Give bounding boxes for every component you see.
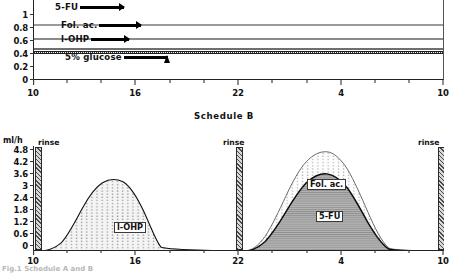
- xtick-top-4: 4: [327, 88, 355, 98]
- ytick-bot-3-6: 3.6: [2, 169, 28, 179]
- curve-label-l-ohp: l-OHP: [114, 222, 146, 233]
- ytick-bot-4-2: 4.2: [2, 157, 28, 167]
- ytick-top-0-6: 0.6: [2, 36, 28, 46]
- ytick-top-0-8: 0.8: [2, 23, 28, 33]
- rinse-label-2: rinse: [223, 138, 244, 147]
- ytick-bot-1-8: 1.8: [2, 205, 28, 215]
- annotation-label: Fol. ac.: [61, 20, 97, 30]
- ytickmark-bot: [30, 161, 34, 162]
- ytickmark-bot: [30, 245, 34, 246]
- ytickmark-bot: [30, 173, 34, 174]
- ytickmark-bot: [30, 185, 34, 186]
- xtick-top-10b: 10: [429, 88, 454, 98]
- ytick-bot-0: 0: [2, 241, 28, 251]
- arrow-right-icon: [80, 6, 124, 9]
- ytick-bot-1-2: 1.2: [2, 217, 28, 227]
- xtick-top-22: 22: [224, 88, 252, 98]
- xtick-top-10a: 10: [19, 88, 47, 98]
- annotation-label: l-OHP: [61, 34, 89, 44]
- ytick-top-0: 0: [2, 75, 28, 85]
- plot-area-bottom: l-OHP Fol. ac. 5-FU: [33, 146, 444, 251]
- ytickmark-top: [30, 53, 34, 54]
- rinse-label-1: rinse: [38, 138, 59, 147]
- xtick-top-16: 16: [121, 88, 149, 98]
- ytick-bot-3: 3: [2, 181, 28, 191]
- curve-label-5-fu: 5-FU: [316, 211, 343, 222]
- rinse-bar-1: [35, 147, 42, 250]
- ytickmark-bot: [30, 221, 34, 222]
- schedule-b-title: Schedule B: [0, 111, 448, 121]
- ytick-top-0-2: 0.2: [2, 62, 28, 72]
- band-l-ohp: [34, 48, 443, 50]
- curve-label-fol-ac: Fol. ac.: [307, 179, 346, 190]
- ytick-bot-4-8: 4.8: [2, 145, 28, 155]
- rinse-bar-2: [236, 147, 243, 250]
- annotation-fol-ac: Fol. ac.: [61, 20, 141, 30]
- xtick-bot-16: 16: [121, 256, 149, 266]
- rinse-label-3: rinse: [418, 138, 439, 147]
- xtick-bot-4: 4: [327, 256, 355, 266]
- arrow-right-icon: [99, 24, 141, 27]
- annotation-5fu: 5-FU: [55, 2, 124, 12]
- chart-panel-top: [33, 0, 444, 88]
- arrow-up-icon: [124, 56, 168, 59]
- ytick-top-0-4: 0.4: [2, 49, 28, 59]
- ytickmark-bot: [30, 149, 34, 150]
- curve-l-ohp: [39, 179, 234, 251]
- annotation-label: 5% glucose: [65, 52, 122, 62]
- ytickmark-top: [30, 14, 34, 15]
- ytickmark-bot: [30, 197, 34, 198]
- ytick-bot-0-6: 0.6: [2, 229, 28, 239]
- figure-caption: Fig.1 Schedule A and B: [2, 265, 93, 274]
- ytickmark-top: [30, 40, 34, 41]
- xtick-bot-10b: 10: [429, 256, 454, 266]
- ytickmark-top: [30, 66, 34, 67]
- yaxis-label-ml-per-h: ml/h: [3, 136, 23, 145]
- annotation-label: 5-FU: [55, 2, 78, 12]
- annotation-5-glucose: 5% glucose: [65, 52, 168, 62]
- xtick-bot-22: 22: [224, 256, 252, 266]
- rinse-bar-3: [438, 147, 444, 250]
- ytick-top-1: 1: [2, 10, 28, 20]
- annotation-l-ohp: l-OHP: [61, 34, 129, 44]
- xaxis-ticks-top: [33, 80, 444, 86]
- chart-panel-bottom: l-OHP Fol. ac. 5-FU: [33, 146, 444, 258]
- ytickmark-bot: [30, 209, 34, 210]
- ytick-bot-2-4: 2.4: [2, 193, 28, 203]
- ytickmark-bot: [30, 233, 34, 234]
- arrow-right-icon: [91, 38, 129, 41]
- ytickmark-top: [30, 27, 34, 28]
